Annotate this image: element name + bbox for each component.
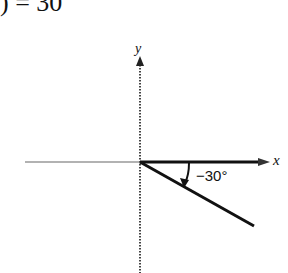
x-axis-arrow (258, 158, 270, 166)
x-axis-label: x (273, 152, 280, 169)
y-axis-arrow (136, 56, 144, 66)
y-axis-label: y (135, 41, 141, 57)
angle-label: −30° (196, 167, 227, 184)
coordinate-diagram (0, 0, 288, 273)
